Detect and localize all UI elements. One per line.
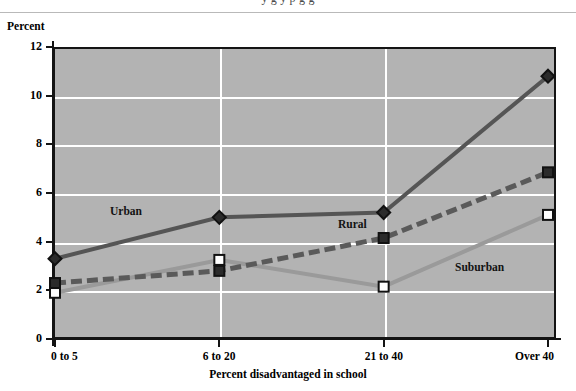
data-point-urban-0 [49, 252, 62, 265]
data-point-rural-0 [50, 278, 60, 288]
data-point-suburban-1 [214, 255, 224, 265]
data-point-rural-3 [543, 167, 553, 177]
data-point-suburban-3 [543, 210, 553, 220]
data-point-suburban-2 [379, 282, 389, 292]
data-point-rural-2 [379, 233, 389, 243]
data-point-urban-1 [213, 211, 226, 224]
series-label-rural: Rural [338, 218, 367, 230]
series-label-suburban: Suburban [455, 261, 504, 273]
x-axis-title: Percent disadvantaged in school [0, 368, 576, 380]
series-line-urban [55, 76, 548, 259]
series-label-urban: Urban [110, 205, 142, 217]
data-point-suburban-0 [50, 288, 60, 298]
chart-page: y g y p g g Percent 0246810120 to 56 to … [0, 0, 576, 391]
data-point-rural-1 [214, 266, 224, 276]
series-layer [0, 0, 576, 391]
